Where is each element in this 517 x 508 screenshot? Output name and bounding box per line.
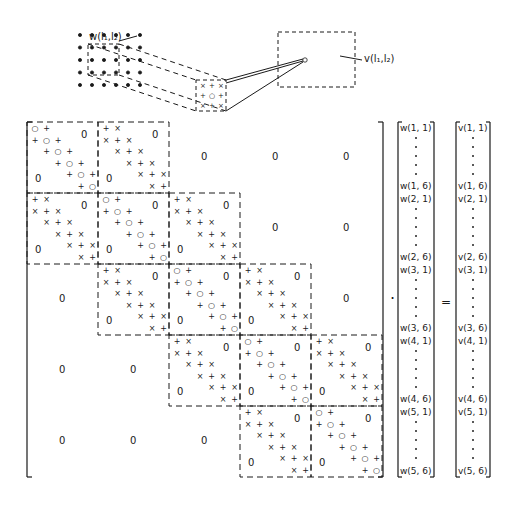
ellipsis-dot: [472, 226, 474, 228]
circle-symbol: ○: [103, 196, 110, 204]
cross-symbol: ×: [78, 231, 85, 239]
ellipsis-dot: [415, 226, 417, 228]
ellipsis-dot: [415, 377, 417, 379]
cross-symbol: ×: [197, 208, 204, 216]
plus-symbol: +: [149, 313, 156, 321]
plus-symbol: +: [197, 302, 204, 310]
circle-symbol: ○: [160, 254, 167, 262]
circle-symbol: ○: [126, 219, 133, 227]
v-entry: v(3, 6): [458, 324, 488, 333]
plus-symbol: +: [149, 231, 156, 239]
plus-symbol: +: [43, 148, 50, 156]
plus-symbol: +: [209, 103, 215, 110]
plus-symbol: +: [220, 242, 227, 250]
circle-symbol: ○: [220, 313, 227, 321]
cross-symbol: ×: [160, 313, 167, 321]
cross-symbol: ×: [218, 83, 224, 90]
cross-symbol: ×: [291, 467, 298, 475]
ellipsis-dot: [472, 306, 474, 308]
plus-symbol: +: [149, 171, 156, 179]
v-entry: v(5, 1): [458, 408, 488, 417]
ellipsis-dot: [415, 359, 417, 361]
plus-symbol: +: [279, 302, 286, 310]
zero-block: 0: [272, 223, 278, 233]
output-window-label: v(l₁,l₂): [364, 54, 394, 64]
cross-symbol: ×: [256, 432, 263, 440]
cross-symbol: ×: [126, 279, 133, 287]
cross-symbol: ×: [327, 338, 334, 346]
v-entry: v(3, 1): [458, 266, 488, 275]
plus-symbol: +: [302, 384, 309, 392]
plus-symbol: +: [245, 350, 252, 358]
plus-symbol: +: [327, 432, 334, 440]
ellipsis-dot: [415, 217, 417, 219]
w-entry: w(1, 1): [400, 124, 432, 133]
plus-symbol: +: [291, 373, 298, 381]
ellipsis-dot: [415, 421, 417, 423]
circle-symbol: ○: [32, 125, 39, 133]
w-entry: w(2, 6): [400, 253, 432, 262]
v-entry: v(1, 1): [458, 124, 488, 133]
zero-upper: 0: [294, 272, 300, 282]
plus-symbol: +: [197, 361, 204, 369]
cross-symbol: ×: [89, 242, 96, 250]
circle-symbol: ○: [291, 384, 298, 392]
ellipsis-dot: [415, 457, 417, 459]
w-entry: w(2, 1): [400, 195, 432, 204]
cross-symbol: ×: [43, 219, 50, 227]
cross-symbol: ×: [256, 290, 263, 298]
cross-symbol: ×: [103, 279, 110, 287]
zero-lower: 0: [106, 174, 112, 184]
plus-symbol: +: [279, 361, 286, 369]
ellipsis-dot: [472, 146, 474, 148]
cross-symbol: ×: [66, 242, 73, 250]
plus-symbol: +: [174, 338, 181, 346]
ellipsis-dot: [415, 350, 417, 352]
cross-symbol: ×: [339, 373, 346, 381]
plus-symbol: +: [208, 290, 215, 298]
cross-symbol: ×: [208, 242, 215, 250]
ellipsis-dot: [415, 235, 417, 237]
zero-block: 0: [130, 365, 136, 375]
ellipsis-dot: [472, 217, 474, 219]
plus-symbol: +: [149, 254, 156, 262]
ellipsis-dot: [472, 457, 474, 459]
plus-symbol: +: [185, 350, 192, 358]
w-entry: w(5, 1): [400, 408, 432, 417]
plus-symbol: +: [268, 350, 275, 358]
v-entry: v(4, 1): [458, 337, 488, 346]
cross-symbol: ×: [350, 384, 357, 392]
circle-symbol: ○: [209, 93, 215, 100]
cross-symbol: ×: [55, 208, 62, 216]
plus-symbol: +: [43, 125, 50, 133]
plus-symbol: +: [66, 171, 73, 179]
circle-symbol: ○: [66, 160, 73, 168]
cross-symbol: ×: [362, 373, 369, 381]
plus-symbol: +: [114, 219, 121, 227]
cross-symbol: ×: [32, 208, 39, 216]
plus-symbol: +: [208, 231, 215, 239]
v-entry: v(2, 1): [458, 195, 488, 204]
circle-symbol: ○: [373, 467, 380, 475]
plus-symbol: +: [197, 219, 204, 227]
zero-lower: 0: [106, 245, 112, 255]
plus-symbol: +: [350, 432, 357, 440]
plus-symbol: +: [66, 148, 73, 156]
plus-symbol: +: [350, 373, 357, 381]
ellipsis-dot: [472, 235, 474, 237]
plus-symbol: +: [185, 208, 192, 216]
cross-symbol: ×: [291, 444, 298, 452]
plus-symbol: +: [32, 196, 39, 204]
cross-symbol: ×: [256, 409, 263, 417]
plus-symbol: +: [114, 137, 121, 145]
cross-symbol: ×: [339, 350, 346, 358]
plus-symbol: +: [256, 279, 263, 287]
circle-symbol: ○: [316, 409, 323, 417]
v-entry: v(1, 6): [458, 182, 488, 191]
cross-symbol: ×: [279, 313, 286, 321]
circle-symbol: ○: [137, 231, 144, 239]
circle-symbol: ○: [245, 338, 252, 346]
plus-symbol: +: [208, 313, 215, 321]
circle-symbol: ○: [174, 267, 181, 275]
input-grid-label: w(l₁,l₂): [89, 32, 122, 42]
